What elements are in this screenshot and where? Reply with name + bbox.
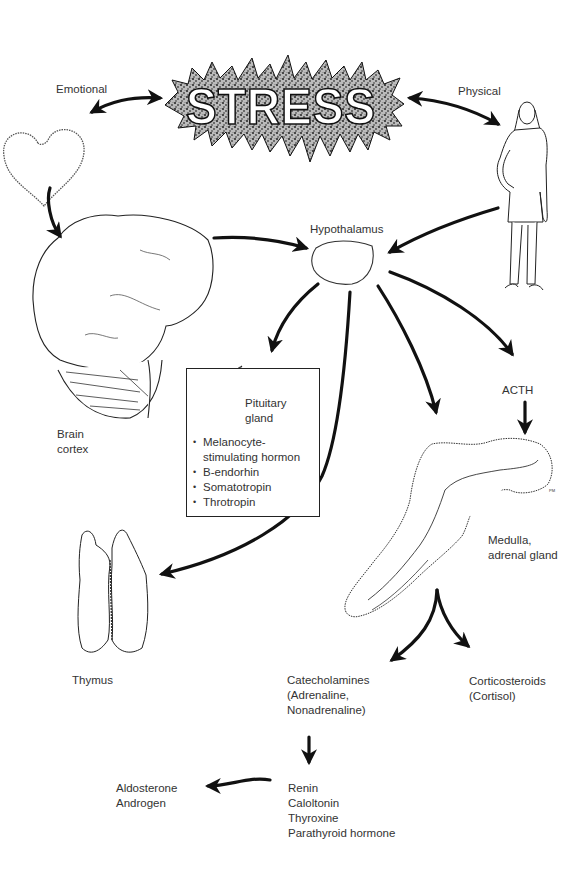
label-line: cortex <box>57 442 88 457</box>
stress-badge: STRESS <box>165 55 404 162</box>
adrenal-gland-icon <box>345 438 552 616</box>
woman-figure-icon <box>497 102 547 290</box>
arrow-renin-aldosterone <box>208 779 270 786</box>
arrow-stress-physical <box>410 98 498 124</box>
pituitary-hormone-list: Melanocyte- stimulating hormon B-endorhi… <box>191 435 300 510</box>
label-catecholamines: Catecholamines (Adrenaline, Nonadrenalin… <box>287 673 369 718</box>
arrow-stress-emotional <box>92 98 160 112</box>
hypothalamus-icon <box>312 241 373 284</box>
label-line: Androgen <box>116 796 177 811</box>
label-line: Caloltonin <box>288 796 395 811</box>
label-line: Medulla, <box>488 533 558 548</box>
label-brain-cortex: Brain cortex <box>57 427 88 457</box>
label-line: (Adrenaline, <box>287 688 369 703</box>
arrow-hypothalamus-adrenal <box>378 286 436 412</box>
arrow-hypothalamus-pituitary <box>272 284 318 350</box>
hormone-item: Somatotropin <box>191 480 300 495</box>
label-hypothalamus: Hypothalamus <box>310 222 384 237</box>
label-physical: Physical <box>458 84 501 99</box>
label-line: Aldosterone <box>116 781 177 796</box>
label-line: Catecholamines <box>287 673 369 688</box>
arrow-adrenal-catecholamines <box>392 590 437 660</box>
label-renin-group: Renin Caloltonin Thyroxine Parathyroid h… <box>288 781 395 841</box>
label-line: (Cortisol) <box>469 689 546 704</box>
label-line: Corticosteroids <box>469 674 546 689</box>
label-line: Parathyroid hormone <box>288 826 395 841</box>
label-line: Renin <box>288 781 395 796</box>
arrow-physical-hypothalamus <box>390 208 498 252</box>
label-line: Nonadrenaline) <box>287 703 369 718</box>
label-line: Brain <box>57 427 88 442</box>
stress-title: STRESS <box>186 79 376 135</box>
heart-icon <box>4 130 84 206</box>
pituitary-title: Pituitary gland <box>245 396 287 426</box>
label-emotional: Emotional <box>56 82 107 97</box>
artist-signature: PM <box>549 488 555 493</box>
arrow-brain-hypothalamus <box>214 237 306 248</box>
hormone-item-continued: stimulating hormon <box>191 450 300 465</box>
label-thymus: Thymus <box>72 673 113 688</box>
label-line: Thyroxine <box>288 811 395 826</box>
label-corticosteroids: Corticosteroids (Cortisol) <box>469 674 546 704</box>
arrow-adrenal-corticosteroids <box>437 590 468 646</box>
label-adrenal: Medulla, adrenal gland <box>488 533 558 563</box>
label-aldosterone-group: Aldosterone Androgen <box>116 781 177 811</box>
label-line: Pituitary <box>245 396 287 411</box>
label-acth: ACTH <box>502 383 533 398</box>
thymus-icon <box>78 530 148 652</box>
label-line: adrenal gland <box>488 548 558 563</box>
hormone-item: B-endorhin <box>191 465 300 480</box>
label-line: gland <box>245 411 287 426</box>
pituitary-box: Pituitary gland Melanocyte- stimulating … <box>186 368 320 517</box>
hormone-item: Throtropin <box>191 495 300 510</box>
hormone-item: Melanocyte- <box>191 435 300 450</box>
